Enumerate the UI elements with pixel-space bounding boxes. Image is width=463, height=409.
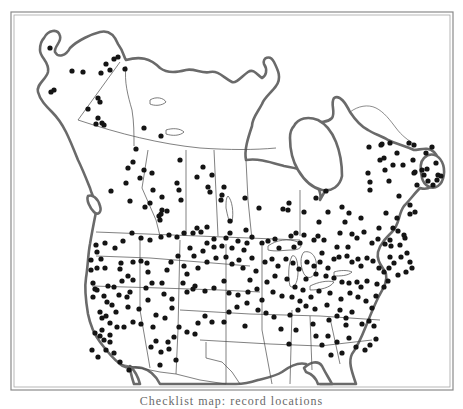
- record-dot: [107, 339, 112, 344]
- record-dot: [200, 248, 205, 253]
- record-dot: [374, 281, 379, 286]
- record-dot: [407, 202, 412, 207]
- record-dot: [114, 324, 119, 329]
- record-dot: [325, 209, 330, 214]
- record-dot: [209, 319, 214, 324]
- record-dot: [102, 265, 107, 270]
- record-dot: [297, 240, 302, 245]
- record-dot: [256, 205, 261, 210]
- record-dot: [223, 235, 228, 240]
- record-dot: [390, 225, 395, 230]
- record-dot: [297, 298, 302, 303]
- record-dot: [95, 115, 100, 120]
- record-dot: [303, 303, 308, 308]
- record-dot: [363, 298, 368, 303]
- record-dot: [286, 200, 291, 205]
- record-dot: [286, 341, 291, 346]
- record-dot: [247, 277, 252, 282]
- record-dot: [117, 266, 122, 271]
- record-dot: [226, 309, 231, 314]
- record-dot: [346, 280, 351, 285]
- record-dot: [88, 257, 93, 262]
- record-dot: [323, 273, 328, 278]
- record-dot: [181, 263, 186, 268]
- record-dot: [98, 256, 103, 261]
- record-dot: [93, 121, 98, 126]
- record-dot: [319, 250, 324, 255]
- record-dot: [292, 284, 297, 289]
- record-dot: [226, 290, 231, 295]
- record-dot: [158, 211, 163, 216]
- record-dot: [184, 329, 189, 334]
- record-dot: [342, 219, 347, 224]
- record-dot: [234, 304, 239, 309]
- record-dot: [103, 347, 108, 352]
- record-dot: [421, 172, 426, 177]
- record-dot: [94, 249, 99, 254]
- record-dot: [312, 306, 317, 311]
- record-dot: [97, 309, 102, 314]
- record-dot: [414, 182, 419, 187]
- record-dot: [354, 235, 359, 240]
- record-dot: [425, 178, 430, 183]
- record-dot: [101, 122, 106, 127]
- record-dot: [345, 244, 350, 249]
- record-dot: [347, 290, 352, 295]
- record-dot: [229, 245, 234, 250]
- record-dot: [411, 142, 416, 147]
- record-dot: [223, 254, 228, 259]
- record-dot: [147, 237, 152, 242]
- record-dot: [349, 259, 354, 264]
- record-dot: [176, 187, 181, 192]
- record-dot: [97, 99, 102, 104]
- record-dot: [133, 146, 138, 151]
- record-dot: [218, 197, 223, 202]
- record-dot: [370, 258, 375, 263]
- record-dot: [204, 259, 209, 264]
- record-dot: [149, 280, 154, 285]
- record-dot: [194, 174, 199, 179]
- record-dot: [259, 240, 264, 245]
- record-dot: [244, 300, 249, 305]
- record-dot: [304, 259, 309, 264]
- record-dot: [367, 179, 372, 184]
- record-dot: [97, 333, 102, 338]
- record-dot: [143, 285, 148, 290]
- record-dot: [387, 237, 392, 242]
- record-dot: [108, 188, 113, 193]
- record-dot: [313, 195, 318, 200]
- record-dot: [375, 236, 380, 241]
- record-dot: [125, 165, 130, 170]
- record-dot: [169, 296, 174, 301]
- record-dot: [391, 260, 396, 265]
- record-dot: [149, 170, 154, 175]
- record-dot: [395, 272, 400, 277]
- record-dot: [394, 150, 399, 155]
- record-dot: [349, 231, 354, 236]
- record-dot: [93, 242, 98, 247]
- record-dot: [161, 291, 166, 296]
- record-dot: [315, 233, 320, 238]
- record-dot: [121, 324, 126, 329]
- record-dot: [178, 197, 183, 202]
- record-dot: [367, 187, 372, 192]
- record-dot: [365, 170, 370, 175]
- record-dot: [138, 235, 143, 240]
- record-dot: [158, 133, 163, 138]
- record-dot: [173, 357, 178, 362]
- record-dot: [80, 69, 85, 74]
- record-dot: [127, 289, 132, 294]
- record-dot: [174, 234, 179, 239]
- record-dot: [211, 244, 216, 249]
- record-dot: [184, 289, 189, 294]
- record-dot: [147, 200, 152, 205]
- record-dot: [400, 162, 405, 167]
- record-dot: [95, 354, 100, 359]
- record-dot: [107, 320, 112, 325]
- record-dot: [334, 339, 339, 344]
- record-dot: [130, 259, 135, 264]
- record-dot: [272, 236, 277, 241]
- record-dot: [148, 344, 153, 349]
- record-dot: [278, 326, 283, 331]
